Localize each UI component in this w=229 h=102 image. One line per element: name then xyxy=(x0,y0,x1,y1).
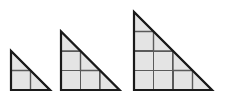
grid-cell-square xyxy=(173,71,193,91)
grid-cell-square xyxy=(134,51,154,71)
grid-cell-square xyxy=(61,51,81,71)
grid-cell-square xyxy=(11,71,31,91)
triangle-3 xyxy=(134,12,212,90)
grid-cell-square xyxy=(154,51,174,71)
triangle-2 xyxy=(61,32,120,91)
grid-cell-square xyxy=(134,71,154,91)
triangle-sequence-diagram xyxy=(0,0,229,102)
figure-container xyxy=(0,0,229,102)
grid-cell-square xyxy=(81,71,101,91)
triangle-1 xyxy=(11,51,50,90)
grid-cell-square xyxy=(134,32,154,52)
grid-cell-square xyxy=(61,71,81,91)
grid-cell-square xyxy=(154,71,174,91)
